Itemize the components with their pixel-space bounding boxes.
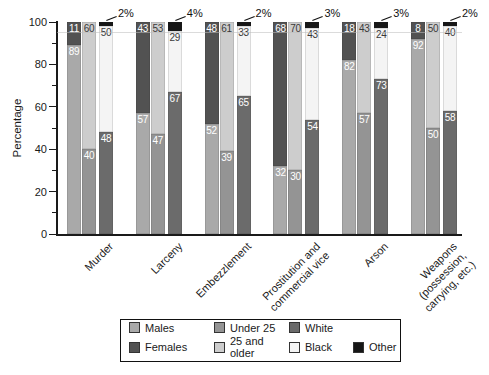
bar-group: 892505040582% [411,22,457,234]
segment-value-label: 39 [220,151,234,163]
legend-item-other: Other [353,335,400,359]
stacked-bar-age: 4357 [357,22,371,234]
y-tick-label: 40 [17,144,47,155]
stacked-bar-sex: 1189 [67,22,81,234]
legend-swatch-other [353,342,364,353]
legend-item-males: Males [129,322,214,334]
bar-segment-under25: 57 [357,113,371,234]
legend-item-black: Black [289,335,353,359]
segment-value-label: 30 [288,170,302,182]
y-tick-label: 0 [17,229,47,240]
legend-item-older25: 25 and older [214,335,289,359]
legend-swatch-white [289,322,300,333]
bar-segment-females: 18 [342,22,356,60]
segment-value-label: 24 [374,28,388,40]
other-callout: 2% [244,13,272,24]
bar-segment-males: 57 [136,113,150,234]
legend-swatch-under25 [214,322,225,333]
legend-box: MalesUnder 25WhiteFemales25 and olderBla… [120,319,401,362]
bar-segment-older25: 61 [220,22,234,151]
stacked-bar-age: 6040 [82,22,96,234]
y-tick-minor [52,212,56,213]
category-label: Prostitution andcommercial vice [258,240,332,314]
bar-segment-black: 50 [99,26,113,132]
bar-group: 1882435724733% [342,22,388,234]
other-callout: 2% [106,13,134,24]
other-callout: 2% [450,13,478,24]
stacked-bar-age: 5050 [426,22,440,234]
bar-segment-females: 48 [205,22,219,124]
segment-value-label: 43 [305,28,319,40]
category-label: Embezzlement [193,240,254,301]
stacked-bar-age: 7030 [288,22,302,234]
legend-swatch-older25 [214,342,225,353]
y-tick-minor [52,85,56,86]
bar-segment-older25: 43 [357,22,371,113]
stacked-bar-race: 2473 [374,22,388,234]
bar-segment-older25: 70 [288,22,302,170]
bar-segment-white: 67 [168,92,182,234]
stacked-bar-age: 5347 [151,22,165,234]
legend-item-females: Females [129,335,214,359]
other-callout-label: 3% [393,8,409,19]
bar-segment-males: 82 [342,60,356,234]
legend-label: Males [145,322,174,334]
bar-group: 4852613933652% [205,22,251,234]
bar-group: 6832703043543% [273,22,319,234]
y-tick-minor [52,128,56,129]
bar-segment-males: 52 [205,124,219,234]
segment-value-label: 48 [99,132,113,144]
segment-value-label: 47 [151,134,165,146]
legend-label: Black [305,341,332,353]
bar-segment-under25: 50 [426,128,440,234]
callout-line [244,16,255,21]
other-callout: 3% [312,13,340,24]
y-tick-major [49,106,56,107]
stacked-bar-age: 6139 [220,22,234,234]
plot-area: 1189604050482%4357534729674%485261393365… [57,22,462,234]
segment-value-label: 57 [136,113,150,125]
category-label: Larceny [148,240,185,277]
bar-segment-black: 43 [305,28,319,119]
y-tick-major [49,22,56,23]
segment-value-label: 89 [67,45,81,57]
callout-line [450,16,461,21]
callout-line [381,16,392,21]
segment-value-label: 73 [374,79,388,91]
bar-segment-males: 32 [273,166,287,234]
segment-value-label: 58 [443,111,457,123]
bar-segment-black: 33 [237,26,251,96]
other-callout: 4% [175,13,203,24]
stacked-bar-race: 3365 [237,22,251,234]
bar-segment-white: 65 [237,96,251,234]
chart-canvas: Percentage 020406080100 1189604050482%43… [0,0,489,375]
y-tick-minor [52,43,56,44]
legend-label: Other [369,341,397,353]
segment-value-label: 32 [273,166,287,178]
bar-segment-black: 40 [443,26,457,111]
legend-swatch-black [289,342,300,353]
y-tick-label: 100 [17,17,47,28]
y-tick-label: 60 [17,102,47,113]
bar-segment-females: 11 [67,22,81,45]
segment-value-label: 54 [305,120,319,132]
legend-item-white: White [289,322,353,334]
bar-group: 1189604050482% [67,22,113,234]
y-tick-major [49,149,56,150]
y-tick-label: 20 [17,187,47,198]
segment-value-label: 57 [357,113,371,125]
faint-gridline [57,32,462,33]
bar-segment-females: 68 [273,22,287,166]
other-callout-label: 2% [256,8,272,19]
bar-segment-males: 89 [67,45,81,234]
y-axis-title: Percentage [11,88,23,168]
segment-value-label: 52 [205,124,219,136]
y-tick-major [49,234,56,235]
category-label: Murder [82,240,116,274]
callout-line [313,16,324,21]
bar-segment-males: 92 [411,39,425,234]
bar-segment-white: 58 [443,111,457,234]
bar-segment-females: 43 [136,22,150,113]
other-callout-label: 3% [324,8,340,19]
bar-segment-black: 24 [374,28,388,79]
